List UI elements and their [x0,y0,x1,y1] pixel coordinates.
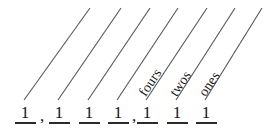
digit-cell-1: 1 [48,104,70,124]
digit-underline-4 [137,122,158,124]
digit-value-5: 1 [166,104,188,121]
place-value-figure: fourstwosones 1111111,, [0,0,268,130]
digit-cell-6: 1 [195,104,217,124]
pointer-line-1 [58,8,121,100]
digit-underline-5 [167,122,188,124]
digit-underline-0 [15,122,36,124]
digit-separator-0: , [38,107,46,124]
digit-separator-1: , [130,107,138,124]
digit-value-0: 1 [14,104,36,121]
pointer-line-0 [24,8,90,100]
digit-cell-3: 1 [107,104,129,124]
digit-value-4: 1 [136,104,158,121]
digit-underline-6 [196,122,217,124]
digit-row: 1111111,, [0,102,268,128]
digit-value-1: 1 [48,104,70,121]
digit-value-6: 1 [195,104,217,121]
digit-cell-0: 1 [14,104,36,124]
digit-value-3: 1 [107,104,129,121]
digit-cell-4: 1 [136,104,158,124]
digit-underline-2 [79,122,100,124]
digit-cell-2: 1 [78,104,100,124]
digit-value-2: 1 [78,104,100,121]
digit-cell-5: 1 [166,104,188,124]
digit-underline-1 [49,122,70,124]
digit-underline-3 [108,122,129,124]
